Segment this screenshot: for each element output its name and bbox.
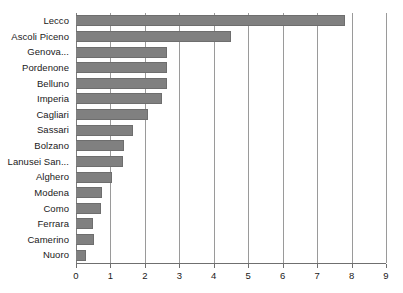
category-axis-labels: LeccoAscoli PicenoGenova...PordenoneBell… <box>0 13 73 263</box>
bar-row <box>76 232 386 248</box>
x-tick-label-1: 1 <box>98 270 122 281</box>
bar-row <box>76 201 386 217</box>
category-label: Alghero <box>36 169 69 185</box>
bar-row <box>76 169 386 185</box>
bar <box>76 234 94 245</box>
bar-row <box>76 107 386 123</box>
bar <box>76 15 345 26</box>
bar-chart: LeccoAscoli PicenoGenova...PordenoneBell… <box>0 0 403 293</box>
x-tick-1 <box>110 264 111 268</box>
bar <box>76 172 112 183</box>
gridline-9 <box>386 13 387 263</box>
x-tick-label-4: 4 <box>202 270 226 281</box>
bar <box>76 203 101 214</box>
category-label: Camerino <box>27 232 69 248</box>
bar-row <box>76 76 386 92</box>
x-tick-2 <box>145 264 146 268</box>
category-label: Sassari <box>37 122 69 138</box>
category-label: Genova... <box>27 44 69 60</box>
bar <box>76 93 162 104</box>
x-tick-label-9: 9 <box>374 270 398 281</box>
x-tick-5 <box>248 264 249 268</box>
category-label: Lecco <box>43 13 69 29</box>
x-tick-7 <box>317 264 318 268</box>
bar <box>76 218 93 229</box>
category-label: Cagliari <box>36 107 69 123</box>
bar-row <box>76 247 386 263</box>
category-label: Como <box>43 201 69 217</box>
x-tick-label-5: 5 <box>236 270 260 281</box>
bar-row <box>76 185 386 201</box>
bar <box>76 78 167 89</box>
x-tick-8 <box>352 264 353 268</box>
x-tick-4 <box>214 264 215 268</box>
bar <box>76 31 231 42</box>
bar <box>76 47 167 58</box>
x-tick-0 <box>76 264 77 268</box>
bar <box>76 140 124 151</box>
x-tick-3 <box>179 264 180 268</box>
bar-row <box>76 138 386 154</box>
bar <box>76 187 102 198</box>
category-label: Pordenone <box>22 60 69 76</box>
category-label: Belluno <box>37 76 69 92</box>
bar <box>76 125 133 136</box>
category-label: Modena <box>34 185 69 201</box>
x-tick-label-7: 7 <box>305 270 329 281</box>
category-label: Lanusei San... <box>8 154 69 170</box>
bar <box>76 250 86 261</box>
bar-row <box>76 13 386 29</box>
x-tick-9 <box>386 264 387 268</box>
x-axis-tick-labels: 0123456789 <box>76 270 386 284</box>
category-label: Imperia <box>37 91 69 107</box>
bar-row <box>76 122 386 138</box>
x-tick-6 <box>283 264 284 268</box>
x-tick-label-2: 2 <box>133 270 157 281</box>
category-label: Ferrara <box>38 216 70 232</box>
category-label: Nuoro <box>43 247 69 263</box>
bar <box>76 109 148 120</box>
bar-row <box>76 60 386 76</box>
plot-area <box>76 13 386 263</box>
x-axis-ticks <box>76 264 386 269</box>
category-label: Ascoli Piceno <box>11 29 69 45</box>
bar <box>76 156 123 167</box>
x-tick-label-0: 0 <box>64 270 88 281</box>
category-label: Bolzano <box>34 138 69 154</box>
x-tick-label-8: 8 <box>340 270 364 281</box>
x-tick-label-6: 6 <box>271 270 295 281</box>
bar <box>76 62 167 73</box>
bar-row <box>76 91 386 107</box>
x-tick-label-3: 3 <box>167 270 191 281</box>
bar-row <box>76 29 386 45</box>
bar-row <box>76 44 386 60</box>
bar-row <box>76 154 386 170</box>
bar-row <box>76 216 386 232</box>
